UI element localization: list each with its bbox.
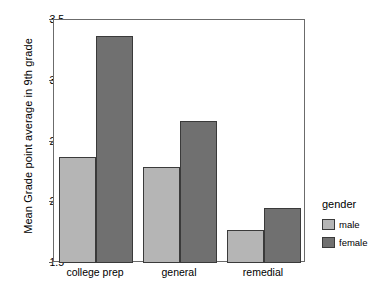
y-tick-mark xyxy=(49,262,53,263)
plot-area xyxy=(53,19,305,262)
legend-label: male xyxy=(339,219,360,230)
x-axis-label: remedial xyxy=(243,266,283,278)
bar-college-prep-female xyxy=(96,36,133,263)
bar-remedial-female xyxy=(264,208,301,263)
legend-label: female xyxy=(339,237,368,248)
legend-swatch-icon xyxy=(322,237,335,248)
legend-entry-female: female xyxy=(322,237,380,248)
bars-layer xyxy=(54,20,304,261)
bar-college-prep-male xyxy=(59,157,96,263)
x-axis-label: general xyxy=(161,266,196,278)
legend: gender malefemale xyxy=(322,198,380,255)
legend-entries: malefemale xyxy=(322,219,380,248)
legend-entry-male: male xyxy=(322,219,380,230)
legend-swatch-icon xyxy=(322,219,335,230)
bar-general-female xyxy=(180,121,217,263)
legend-title: gender xyxy=(322,198,380,210)
bar-remedial-male xyxy=(227,230,264,263)
bar-general-male xyxy=(143,167,180,263)
bar-chart: Mean Grade point average in 9th grade 1.… xyxy=(0,0,382,301)
x-axis-label: college prep xyxy=(66,266,123,278)
